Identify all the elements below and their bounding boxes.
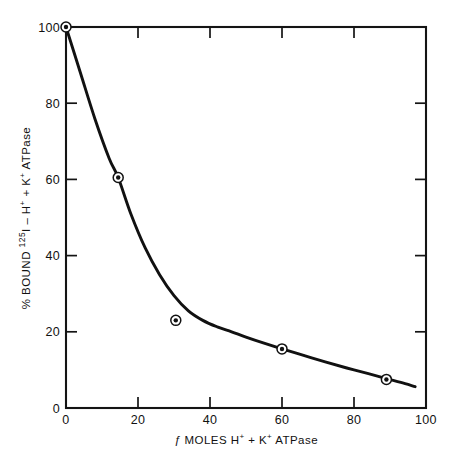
svg-text:% BOUND 125I – H+ + K+ ATPase: % BOUND 125I – H+ + K+ ATPase	[17, 127, 32, 309]
x-axis-label: ƒ MOLES H+ + K+ ATPase	[174, 432, 318, 446]
y-label-mid: + K	[20, 178, 32, 201]
x-tick-label-80: 80	[347, 413, 362, 427]
x-tick-label-20: 20	[131, 413, 146, 427]
data-point-dot	[280, 347, 284, 351]
y-tick-label-0: 0	[53, 402, 60, 416]
x-tick-label-0: 0	[62, 413, 69, 427]
y-label-prefix: % BOUND	[20, 247, 32, 309]
binding-curve-chart: 0 20 40 60 80 100 0 20 40 60 80 100 % BO…	[0, 0, 463, 457]
chart-figure: 0 20 40 60 80 100 0 20 40 60 80 100 % BO…	[0, 0, 463, 457]
svg-text:ƒ MOLES H+ + K+ ATPase: ƒ MOLES H+ + K+ ATPase	[174, 432, 318, 446]
y-label-main: – H	[20, 205, 32, 228]
data-point-dot	[174, 318, 178, 322]
y-tick-label-20: 20	[45, 325, 60, 339]
y-label-suffix: ATPase	[20, 127, 32, 173]
x-label-suffix: ATPase	[272, 434, 318, 446]
data-point-dot	[64, 25, 68, 29]
chart-background	[0, 0, 463, 457]
y-tick-label-100: 100	[38, 21, 60, 35]
x-label-prefix: ƒ	[174, 434, 181, 446]
x-tick-label-40: 40	[203, 413, 218, 427]
y-label-isotope-superscript: 125	[17, 232, 27, 248]
y-tick-label-40: 40	[45, 249, 60, 263]
x-label-mid: + K	[245, 434, 268, 446]
y-tick-label-80: 80	[45, 97, 60, 111]
y-tick-label-60: 60	[45, 173, 60, 187]
x-tick-label-60: 60	[275, 413, 290, 427]
x-label-main: MOLES H	[181, 434, 240, 446]
x-tick-label-100: 100	[415, 413, 437, 427]
data-point-dot	[384, 377, 388, 381]
data-point-dot	[116, 175, 120, 179]
y-axis-label: % BOUND 125I – H+ + K+ ATPase	[17, 127, 32, 309]
